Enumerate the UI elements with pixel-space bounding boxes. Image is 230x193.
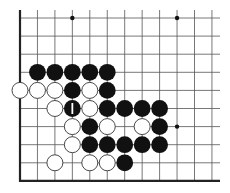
white-stone[interactable] [64,137,80,153]
black-stone[interactable] [47,64,64,81]
black-stone[interactable] [99,64,116,81]
white-stone-icon [99,119,115,135]
white-stone[interactable] [134,119,150,135]
black-stone[interactable] [116,136,133,153]
black-stone-icon [151,136,168,153]
black-stone[interactable] [151,100,168,117]
black-stone-icon [99,64,116,81]
black-stone[interactable] [116,154,133,171]
black-stone-icon [151,100,168,117]
black-stone-icon [134,136,151,153]
black-stone-icon [116,100,133,117]
move-marker-icon [71,103,73,114]
white-stone[interactable] [29,82,45,98]
black-stone-icon [99,100,116,117]
black-stone[interactable] [81,64,98,81]
white-stone[interactable] [47,155,63,171]
white-stone-icon [47,82,63,98]
star-point-icon [175,16,179,20]
black-stone-icon [81,136,98,153]
black-stone-icon [64,64,81,81]
black-stone[interactable] [116,100,133,117]
black-stone[interactable] [151,136,168,153]
white-stone[interactable] [12,82,28,98]
white-stone-icon [29,82,45,98]
black-stone-icon [116,154,133,171]
star-point-icon [70,16,74,20]
white-stone[interactable] [82,155,98,171]
black-stone[interactable] [99,100,116,117]
white-stone[interactable] [47,101,63,117]
black-stone[interactable] [99,82,116,99]
black-stone[interactable] [81,118,98,135]
black-stone-icon [81,118,98,135]
white-stone[interactable] [47,82,63,98]
white-stone-icon [99,155,115,171]
black-stone-icon [81,64,98,81]
black-stone[interactable] [29,64,46,81]
white-stone-icon [47,101,63,117]
black-stone-icon [47,64,64,81]
black-stone[interactable] [64,100,81,117]
white-stone[interactable] [82,101,98,117]
white-stone[interactable] [99,119,115,135]
black-stone-icon [116,136,133,153]
white-stone-icon [82,155,98,171]
white-stone-icon [12,82,28,98]
white-stone-icon [82,101,98,117]
black-stone-icon [99,136,116,153]
black-stone[interactable] [134,100,151,117]
white-stone-icon [64,137,80,153]
go-board[interactable] [0,0,230,193]
white-stone[interactable] [99,155,115,171]
black-stone[interactable] [81,136,98,153]
black-stone-icon [134,100,151,117]
black-stone[interactable] [151,118,168,135]
black-stone[interactable] [64,64,81,81]
white-stone-icon [64,119,80,135]
white-stone[interactable] [82,82,98,98]
black-stone-icon [29,64,46,81]
white-stone[interactable] [64,119,80,135]
white-stone-icon [134,119,150,135]
black-stone[interactable] [134,136,151,153]
black-stone[interactable] [99,136,116,153]
star-point-icon [175,124,179,128]
white-stone-icon [47,155,63,171]
black-stone-icon [151,118,168,135]
black-stone-icon [64,82,81,99]
black-stone-icon [99,82,116,99]
go-board-canvas[interactable] [0,0,230,193]
black-stone[interactable] [64,82,81,99]
white-stone-icon [82,82,98,98]
